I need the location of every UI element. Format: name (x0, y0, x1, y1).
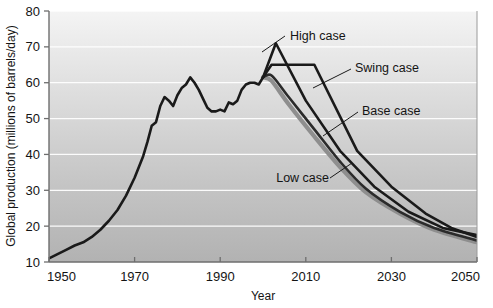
series-label-low-case: Low case (276, 171, 329, 185)
y-tick-label: 70 (26, 39, 40, 54)
chart-container: High caseSwing caseBase caseLow case 102… (0, 0, 493, 308)
y-tick-label: 30 (26, 183, 40, 198)
y-tick-label: 50 (26, 111, 40, 126)
y-tick-label: 60 (26, 75, 40, 90)
x-tick-label: 2050 (451, 269, 480, 284)
x-tick-label: 1990 (206, 269, 235, 284)
series-label-swing-case: Swing case (355, 61, 419, 75)
global-oil-production-chart: High caseSwing caseBase caseLow case 102… (0, 0, 493, 308)
x-tick-label: 1950 (47, 269, 76, 284)
y-tick-label: 10 (26, 255, 40, 270)
y-axis-title: Global production (millions of barrels/d… (4, 25, 18, 246)
plot-area-background (49, 11, 477, 262)
x-tick-label: 2010 (291, 269, 320, 284)
x-tick-label: 2030 (377, 269, 406, 284)
x-axis-title: Year (251, 289, 275, 303)
x-tick-label: 1970 (120, 269, 149, 284)
series-label-base-case: Base case (362, 104, 420, 118)
y-tick-label: 80 (26, 4, 40, 19)
series-label-high-case: High case (290, 29, 346, 43)
y-tick-label: 20 (26, 219, 40, 234)
y-tick-label: 40 (26, 147, 40, 162)
